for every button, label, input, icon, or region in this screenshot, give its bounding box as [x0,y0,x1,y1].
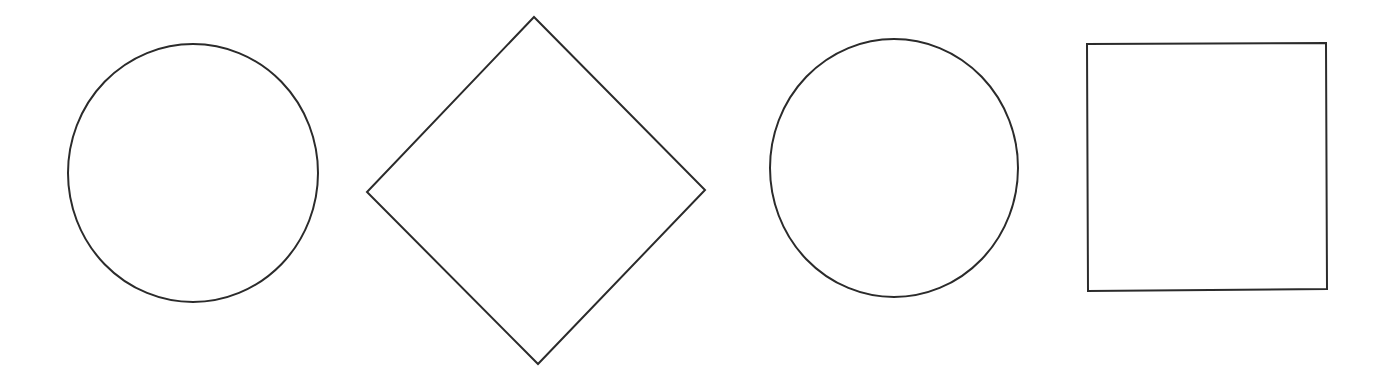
circle-shape-1 [68,44,318,302]
square-shape [1087,43,1327,291]
diamond-shape [367,17,705,364]
circle-shape-2 [770,39,1018,297]
shapes-canvas [0,0,1381,387]
